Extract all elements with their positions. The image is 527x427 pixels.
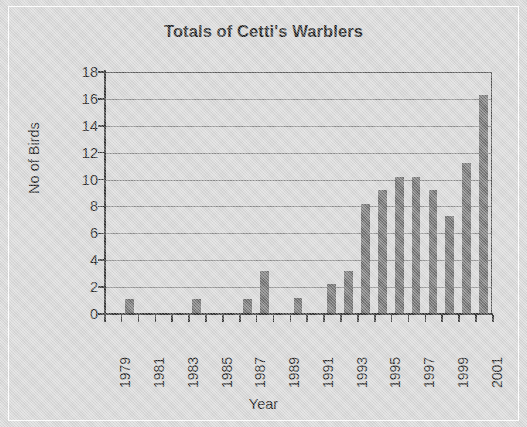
x-axis-ticks — [104, 315, 493, 323]
bar — [479, 95, 488, 314]
x-tick-mark — [155, 315, 157, 322]
x-tick-mark — [138, 315, 140, 322]
gridline — [104, 99, 492, 100]
x-tick-mark — [408, 315, 410, 322]
y-axis-tick-labels: 024681012141618 — [58, 72, 98, 314]
bar — [378, 190, 387, 314]
gridline — [104, 153, 492, 154]
x-tick-label: 1997 — [421, 357, 437, 388]
plot-area — [104, 72, 492, 314]
bar — [294, 298, 303, 314]
bar — [327, 284, 336, 314]
x-tick-mark — [425, 315, 427, 322]
x-tick-label: 1983 — [185, 357, 201, 388]
x-tick-mark — [458, 315, 460, 322]
bar — [412, 177, 421, 314]
x-axis-title: Year — [0, 396, 527, 412]
x-tick-mark — [492, 315, 494, 322]
y-tick-label: 12 — [82, 145, 98, 161]
x-axis-tick-labels: 1979198119831985198719891991199319951997… — [104, 326, 493, 392]
bar — [429, 190, 438, 314]
bar — [125, 299, 134, 314]
x-tick-label: 1989 — [286, 357, 302, 388]
x-tick-mark — [222, 315, 224, 322]
y-tick-label: 6 — [90, 225, 98, 241]
bar — [192, 299, 201, 314]
bar — [243, 299, 252, 314]
bar — [361, 204, 370, 314]
y-axis-line — [104, 70, 106, 316]
chart-title: Totals of Cetti's Warblers — [0, 22, 527, 41]
x-tick-mark — [256, 315, 258, 322]
x-tick-mark — [239, 315, 241, 322]
x-tick-mark — [357, 315, 359, 322]
x-tick-mark — [290, 315, 292, 322]
x-tick-label: 1999 — [455, 357, 471, 388]
gridline — [104, 180, 492, 181]
bar — [395, 177, 404, 314]
y-tick-label: 0 — [90, 306, 98, 322]
y-tick-label: 4 — [90, 252, 98, 268]
x-tick-label: 1995 — [387, 357, 403, 388]
x-tick-mark — [205, 315, 207, 322]
y-tick-label: 2 — [90, 279, 98, 295]
x-tick-mark — [475, 315, 477, 322]
y-tick-label: 14 — [82, 118, 98, 134]
x-tick-mark — [273, 315, 275, 322]
x-tick-mark — [121, 315, 123, 322]
x-tick-label: 1981 — [151, 357, 167, 388]
bar — [260, 271, 269, 314]
y-tick-label: 10 — [82, 172, 98, 188]
chart-figure: Totals of Cetti's Warblers No of Birds 0… — [0, 0, 527, 427]
x-tick-mark — [391, 315, 393, 322]
x-tick-mark — [188, 315, 190, 322]
x-tick-label: 1985 — [219, 357, 235, 388]
x-tick-mark — [323, 315, 325, 322]
x-tick-label: 1991 — [320, 357, 336, 388]
bar — [445, 216, 454, 314]
y-tick-label: 16 — [82, 91, 98, 107]
x-tick-mark — [104, 315, 106, 322]
x-tick-mark — [374, 315, 376, 322]
x-tick-label: 1979 — [117, 357, 133, 388]
x-tick-label: 1987 — [252, 357, 268, 388]
y-axis-title: No of Birds — [26, 88, 42, 228]
y-tick-label: 18 — [82, 64, 98, 80]
x-tick-label: 1993 — [354, 357, 370, 388]
y-tick-label: 8 — [90, 198, 98, 214]
bar — [462, 163, 471, 314]
x-tick-mark — [441, 315, 443, 322]
x-tick-mark — [340, 315, 342, 322]
x-tick-mark — [306, 315, 308, 322]
x-tick-mark — [171, 315, 173, 322]
x-tick-label: 2001 — [489, 357, 505, 388]
gridline — [104, 126, 492, 127]
bar — [344, 271, 353, 314]
